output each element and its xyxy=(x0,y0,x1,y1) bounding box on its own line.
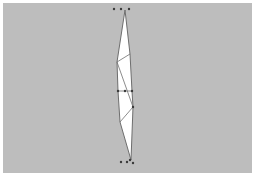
vertex-point xyxy=(131,90,133,92)
vertex-point xyxy=(128,8,130,10)
vertex-point xyxy=(124,90,126,92)
vertex-point xyxy=(129,159,131,161)
vertex-point xyxy=(113,8,115,10)
vertex-point xyxy=(126,161,128,163)
vertex-point xyxy=(117,90,119,92)
vertex-point xyxy=(132,106,134,108)
folded-shape-diagram xyxy=(0,0,255,180)
vertex-point xyxy=(120,8,122,10)
vertex-point xyxy=(120,161,122,163)
vertex-point xyxy=(132,162,134,164)
